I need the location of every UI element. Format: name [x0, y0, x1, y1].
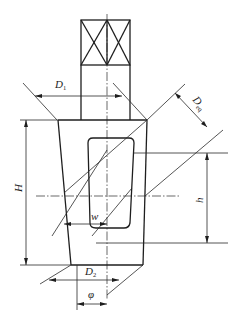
label-h-overall: H [12, 183, 24, 193]
extension-lines [20, 120, 228, 310]
inclined-lines [23, 83, 223, 295]
drive-head [81, 20, 130, 65]
dimension-w[interactable]: w [64, 210, 107, 226]
label-h-slot: h [193, 197, 205, 203]
dimension-deq[interactable]: Deq [175, 93, 209, 127]
label-d2: D2 [84, 265, 96, 278]
label-w: w [91, 210, 99, 222]
dimension-h-slot[interactable]: h [193, 153, 209, 243]
dimension-h-overall[interactable]: H [12, 120, 28, 265]
label-deq: Deq [189, 93, 209, 113]
dimension-d1[interactable]: D1 [35, 78, 122, 98]
dimension-phi[interactable]: φ [77, 288, 107, 306]
label-phi: φ [88, 288, 94, 300]
label-d1: D1 [54, 78, 66, 91]
neck [81, 65, 130, 120]
technical-diagram: D1 Deq H h w D2 φ [0, 0, 235, 322]
dimension-d2[interactable]: D2 [49, 265, 119, 282]
